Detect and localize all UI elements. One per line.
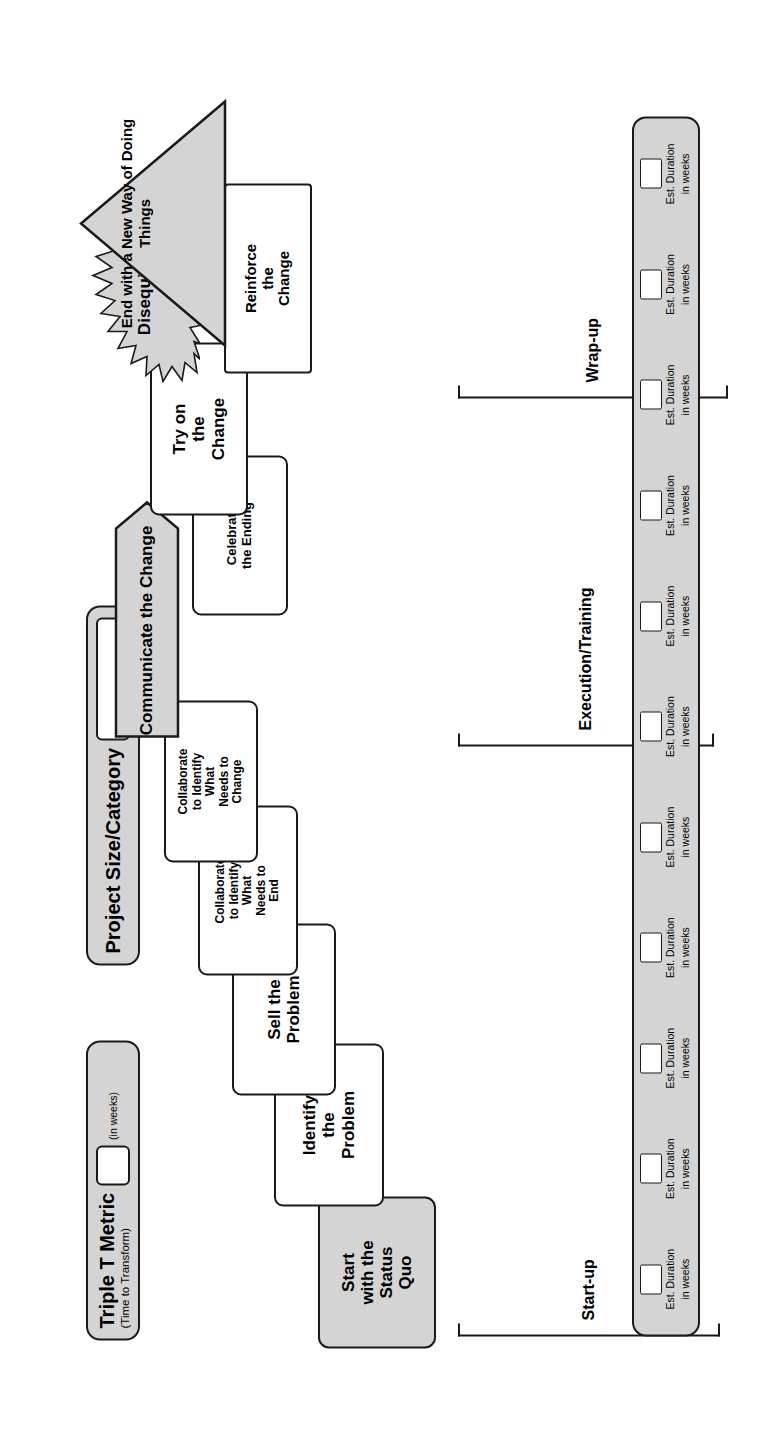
bracket-tip-top (458, 1323, 460, 1336)
legend-text-group: Triple T Metric (Time to Transform) (96, 1192, 131, 1328)
node-communicate-the-change[interactable]: Communicate the Change (114, 500, 180, 738)
duration-label-line2: in weeks (680, 1037, 692, 1078)
node-line: to Identify (191, 748, 204, 814)
legend-subtitle-time-to-transform: (Time to Transform) (119, 1192, 131, 1328)
bracket-tip-bottom (712, 733, 714, 746)
node-label-group: Communicate the Change (137, 522, 157, 738)
duration-label-line1: Est. Duration (665, 806, 677, 867)
duration-value-box[interactable] (640, 158, 662, 188)
duration-label-line1: Est. Duration (665, 1027, 677, 1088)
duration-label-line2: in weeks (680, 153, 692, 194)
node-line: Problem (284, 975, 303, 1043)
node-line: Collaborate (177, 748, 190, 814)
duration-cell[interactable]: Est. Durationin weeks (634, 892, 698, 1003)
duration-cell[interactable]: Est. Durationin weeks (634, 118, 698, 229)
duration-value-box[interactable] (640, 601, 662, 631)
duration-label-line1: Est. Duration (665, 1248, 677, 1309)
duration-value-box[interactable] (640, 1264, 662, 1294)
node-line: the (260, 243, 277, 312)
node-line: with the (358, 1240, 377, 1304)
node-line: What (204, 748, 217, 814)
node-line: Change (209, 397, 228, 459)
duration-label-line1: Est. Duration (665, 143, 677, 204)
node-line: the (189, 397, 208, 459)
node-start-with-the-status-quo[interactable]: Start with the Status Quo (318, 1196, 436, 1348)
node-line: Change (231, 748, 244, 814)
duration-value-box[interactable] (640, 1153, 662, 1183)
node-label-group: Collaborate to Identify What Needs to En… (214, 857, 281, 923)
duration-label-line1: Est. Duration (665, 585, 677, 646)
duration-value-box[interactable] (640, 932, 662, 962)
legend-triple-t-metric[interactable]: Triple T Metric (Time to Transform) (in … (86, 1040, 140, 1340)
phase-label-start-up: Start-up (580, 1259, 598, 1320)
node-line: Try on (170, 397, 189, 459)
node-end-with-a-new-way-of-doing-things[interactable]: End with a New Way of Doing Things (78, 98, 228, 348)
duration-value-box[interactable] (640, 379, 662, 409)
legend-unit-in-weeks: (in weeks) (107, 1092, 119, 1140)
duration-label-line2: in weeks (680, 595, 692, 636)
duration-cell[interactable]: Est. Durationin weeks (634, 671, 698, 782)
node-line: Things (136, 198, 153, 247)
node-label-group: Start with the Status Quo (339, 1240, 415, 1304)
duration-label-line2: in weeks (680, 485, 692, 526)
duration-value-box[interactable] (640, 822, 662, 852)
duration-cell[interactable]: Est. Durationin weeks (634, 450, 698, 561)
estimated-duration-strip: Est. Durationin weeksEst. Durationin wee… (632, 116, 700, 1336)
node-line: Identify (300, 1090, 319, 1158)
node-line: New (118, 218, 135, 249)
duration-label-line1: Est. Duration (665, 475, 677, 536)
duration-label-line1: Est. Duration (665, 254, 677, 315)
node-line: Doing (118, 118, 135, 161)
node-label-group: End with a New Way of Doing Things (118, 98, 153, 348)
duration-label-line1: Est. Duration (665, 1138, 677, 1199)
duration-label-line2: in weeks (680, 1258, 692, 1299)
duration-label-line2: in weeks (680, 374, 692, 415)
node-label-group: Try on the Change (170, 397, 227, 459)
duration-label-line2: in weeks (680, 816, 692, 857)
duration-label-line2: in weeks (680, 927, 692, 968)
node-line: Needs to (218, 748, 231, 814)
node-line: End (118, 299, 135, 327)
node-line: Problem (339, 1090, 358, 1158)
duration-cell[interactable]: Est. Durationin weeks (634, 781, 698, 892)
duration-cell[interactable]: Est. Durationin weeks (634, 229, 698, 340)
duration-label-line2: in weeks (680, 264, 692, 305)
duration-value-box[interactable] (640, 1043, 662, 1073)
node-line: Change (276, 243, 293, 312)
node-line: What (241, 857, 254, 923)
legend-title-triple-t-metric: Triple T Metric (96, 1192, 119, 1328)
node-label-group: Reinforce the Change (243, 243, 293, 312)
node-label-group: Sell the Problem (265, 975, 303, 1043)
duration-value-box[interactable] (640, 269, 662, 299)
bracket-tip-top (458, 385, 460, 398)
node-line: of (118, 165, 135, 179)
duration-cell[interactable]: Est. Durationin weeks (634, 1113, 698, 1224)
node-line: Sell the (265, 975, 284, 1043)
node-label-group: Collaborate to Identify What Needs to Ch… (177, 748, 244, 814)
legend-value-box-triple-t-metric[interactable] (96, 1145, 130, 1185)
node-line: Status (377, 1240, 396, 1304)
node-line: End (268, 857, 281, 923)
node-line: Communicate the Change (137, 525, 156, 735)
duration-label-line2: in weeks (680, 1148, 692, 1189)
node-line: Way (118, 183, 135, 213)
duration-cell[interactable]: Est. Durationin weeks (634, 1223, 698, 1334)
duration-value-box[interactable] (640, 711, 662, 741)
duration-value-box[interactable] (640, 490, 662, 520)
duration-label-line2: in weeks (680, 706, 692, 747)
legend-title-project-size-category: Project Size/Category (102, 747, 125, 953)
node-reinforce-the-change[interactable]: Reinforce the Change (224, 183, 312, 373)
node-line: Start (339, 1240, 358, 1304)
duration-cell[interactable]: Est. Durationin weeks (634, 339, 698, 450)
node-line: Quo (396, 1240, 415, 1304)
duration-cell[interactable]: Est. Durationin weeks (634, 560, 698, 671)
node-line: the (319, 1090, 338, 1158)
node-label-group: Identify the Problem (300, 1090, 357, 1158)
phase-label-execution-training: Execution/Training (577, 587, 595, 730)
flow-of-change-diagram: Triple T Metric (Time to Transform) (in … (72, 93, 712, 1358)
node-line: with a (118, 253, 135, 296)
figure-page: Triple T Metric (Time to Transform) (in … (0, 0, 784, 1451)
duration-label-line1: Est. Duration (665, 364, 677, 425)
duration-label-line1: Est. Duration (665, 917, 677, 978)
duration-cell[interactable]: Est. Durationin weeks (634, 1002, 698, 1113)
